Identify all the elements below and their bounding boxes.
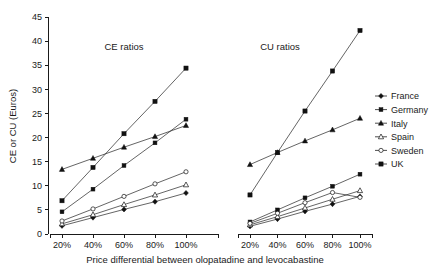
marker-diamond <box>330 202 335 207</box>
marker-filled-square <box>91 165 95 169</box>
x-tick-label: 20% <box>241 240 259 250</box>
panel-ce: 20%40%60%80%100%CE ratios <box>50 41 218 250</box>
legend-label: France <box>391 91 419 101</box>
legend-label: Italy <box>391 119 408 129</box>
marker-open-triangle <box>378 134 383 139</box>
legend-item-italy: Italy <box>375 119 408 129</box>
marker-diamond <box>184 190 189 195</box>
y-tick-label: 10 <box>32 181 42 191</box>
x-tick-label: 40% <box>84 240 102 250</box>
marker-filled-square <box>330 69 334 73</box>
x-tick-label: 60% <box>296 240 314 250</box>
series-uk <box>248 28 362 197</box>
series-spain <box>59 182 188 226</box>
marker-filled-square <box>184 66 188 70</box>
marker-diamond <box>153 199 158 204</box>
y-axis-title: CE or CU (Euros) <box>7 89 18 163</box>
y-tick-label: 25 <box>32 109 42 119</box>
y-axis: 051015202530354045 <box>32 12 48 239</box>
marker-square <box>379 108 383 112</box>
y-tick-label: 40 <box>32 36 42 46</box>
y-tick-label: 35 <box>32 60 42 70</box>
chart-svg: 051015202530354045 20%40%60%80%100%CE ra… <box>0 0 447 270</box>
x-tick-label: 100% <box>348 240 371 250</box>
marker-triangle <box>247 162 252 167</box>
x-tick-label: 80% <box>323 240 341 250</box>
marker-square <box>331 184 335 188</box>
marker-open-circle <box>60 219 64 223</box>
y-tick-label: 15 <box>32 157 42 167</box>
marker-open-circle <box>275 211 279 215</box>
x-tick-label: 20% <box>53 240 71 250</box>
marker-open-circle <box>303 201 307 205</box>
x-tick-label: 80% <box>146 240 164 250</box>
marker-diamond <box>122 207 127 212</box>
marker-open-triangle <box>183 182 188 187</box>
y-tick-label: 30 <box>32 85 42 95</box>
marker-filled-square <box>303 109 307 113</box>
marker-filled-square <box>153 99 157 103</box>
panel-title-cu: CU ratios <box>260 41 300 52</box>
legend-label: Germany <box>391 105 429 115</box>
marker-filled-square <box>275 150 279 154</box>
legend-item-uk: UK <box>375 159 404 169</box>
x-tick-label: 40% <box>268 240 286 250</box>
marker-filled-square <box>248 193 252 197</box>
marker-open-circle <box>122 194 126 198</box>
legend-item-sweden: Sweden <box>375 146 424 156</box>
marker-open-circle <box>330 190 334 194</box>
marker-diamond <box>379 93 384 98</box>
marker-open-circle <box>248 221 252 225</box>
series-germany <box>248 172 362 224</box>
legend-item-france: France <box>375 91 419 101</box>
plot-panels: 20%40%60%80%100%CE ratios20%40%60%80%100… <box>50 28 372 249</box>
marker-open-circle <box>379 148 383 152</box>
marker-triangle <box>183 123 188 128</box>
y-tick-label: 45 <box>32 12 42 22</box>
marker-square <box>91 187 95 191</box>
marker-open-circle <box>184 170 188 174</box>
series-italy <box>247 115 362 166</box>
marker-triangle <box>357 115 362 120</box>
legend-item-germany: Germany <box>375 105 429 115</box>
marker-filled-square <box>60 199 64 203</box>
marker-open-circle <box>358 195 362 199</box>
y-tick-label: 20 <box>32 133 42 143</box>
panel-cu: 20%40%60%80%100%CU ratios <box>238 28 372 249</box>
series-spain <box>247 188 362 227</box>
y-tick-label: 0 <box>37 229 42 239</box>
marker-square <box>358 172 362 176</box>
y-tick-label: 5 <box>37 205 42 215</box>
series-sweden <box>60 170 188 223</box>
x-axis-title: Price differential between olopatadine a… <box>86 254 324 265</box>
marker-open-circle <box>91 207 95 211</box>
marker-filled-square <box>122 132 126 136</box>
marker-square <box>153 141 157 145</box>
legend-item-spain: Spain <box>375 132 414 142</box>
marker-square <box>122 164 126 168</box>
marker-open-circle <box>153 182 157 186</box>
chart-figure: 051015202530354045 20%40%60%80%100%CE ra… <box>0 0 447 270</box>
marker-filled-square <box>379 162 383 166</box>
legend-label: UK <box>391 159 404 169</box>
legend-label: Spain <box>391 132 414 142</box>
marker-square <box>303 196 307 200</box>
series-uk <box>60 66 188 203</box>
legend-label: Sweden <box>391 146 424 156</box>
marker-filled-square <box>358 28 362 32</box>
x-tick-label: 60% <box>115 240 133 250</box>
marker-square <box>60 210 64 214</box>
chart-legend: FranceGermanyItalySpainSwedenUK <box>375 91 429 169</box>
x-tick-label: 100% <box>174 240 197 250</box>
marker-open-triangle <box>357 188 362 193</box>
marker-square <box>184 117 188 121</box>
panel-title-ce: CE ratios <box>104 41 143 52</box>
